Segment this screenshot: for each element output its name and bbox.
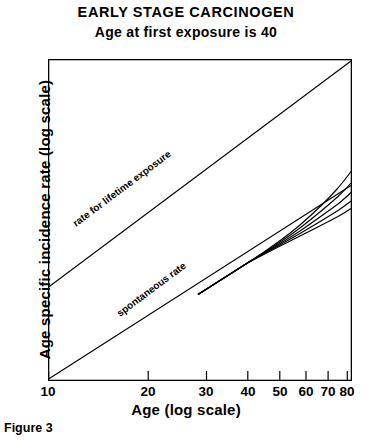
exposure-curve-fan [198, 172, 351, 295]
x-axis-title: Age (log scale) [0, 401, 372, 418]
lifetime-exposure-line [49, 61, 351, 287]
plot-area: rate for lifetime exposure spontaneous r… [48, 59, 352, 381]
x-tick-label-20: 20 [132, 384, 164, 399]
plot-canvas: rate for lifetime exposure spontaneous r… [48, 59, 352, 381]
figure-3-root: EARLY STAGE CARCINOGEN Age at first expo… [0, 0, 372, 441]
annotation-lifetime-exposure: rate for lifetime exposure [71, 148, 174, 229]
chart-title-block: EARLY STAGE CARCINOGEN Age at first expo… [0, 2, 372, 42]
x-tick-label-10: 10 [32, 384, 64, 399]
x-axis-ticks [49, 371, 348, 380]
x-tick-label-40: 40 [232, 384, 264, 399]
annotation-spontaneous-rate: spontaneous rate [115, 260, 189, 319]
exposure-curve-1 [198, 172, 351, 295]
exposure-curve-5 [198, 209, 351, 295]
chart-title-main: EARLY STAGE CARCINOGEN [0, 2, 372, 22]
chart-title-subtitle: Age at first exposure is 40 [0, 22, 372, 42]
figure-caption: Figure 3 [4, 421, 53, 435]
x-tick-label-80: 80 [331, 384, 363, 399]
y-axis-title: Age specific incidence rate (log scale) [36, 70, 53, 370]
x-tick-label-30: 30 [190, 384, 222, 399]
